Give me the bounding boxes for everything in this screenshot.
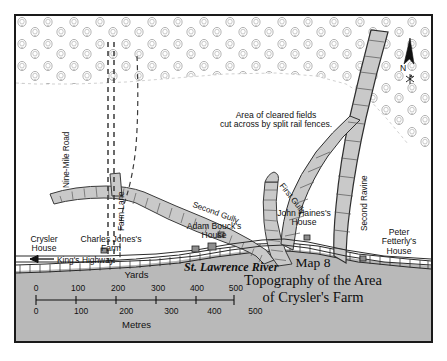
scale-yards-tick: 200 xyxy=(111,283,125,293)
scale-ticks-metres: 0100200300400500 xyxy=(34,306,239,318)
scale-unit-metres: Metres xyxy=(34,319,239,330)
scale-yards-tick: 300 xyxy=(151,283,165,293)
cleared-fields-annotation-line2: cut across by split rail fences. xyxy=(191,120,361,129)
map-title-block: Map 8 Topography of the Area of Crysler'… xyxy=(209,255,417,307)
map-frame: Area of cleared fields cut across by spl… xyxy=(14,14,433,343)
nine-mile-road-label: Nine-Mile Road xyxy=(63,132,72,188)
scale-bar-block: Yards 0100200300400500 0100200300400500 … xyxy=(34,269,239,331)
scale-yards-tick: 500 xyxy=(229,283,243,293)
scale-metres-tick: 300 xyxy=(164,306,178,316)
scale-metres-tick: 100 xyxy=(74,306,88,316)
scale-ticks-yards: 0100200300400500 xyxy=(34,283,239,295)
scale-unit-yards: Yards xyxy=(34,269,239,280)
charles-jones-farm-label-line2: Farm xyxy=(56,244,166,253)
building-john-haines xyxy=(304,235,310,240)
scale-bar-rule xyxy=(34,295,239,305)
scale-yards-tick: 400 xyxy=(190,283,204,293)
map-title-number: Map 8 xyxy=(209,255,417,271)
second-ravine-label: Second Ravine xyxy=(361,175,370,231)
farm-lane-label: Farm Lane xyxy=(118,191,127,231)
scale-metres-tick: 0 xyxy=(34,306,39,316)
adam-bouck-house-label-line2: House xyxy=(166,231,262,240)
charles-jones-farm-label: Charles Jones's Farm xyxy=(56,235,166,254)
peter-fetterly-house-label: Peter Fetterly's House xyxy=(368,228,430,256)
adam-bouck-house-label: Adam Bouck's House xyxy=(166,222,262,241)
north-arrow-label: N xyxy=(400,64,406,73)
cleared-fields-annotation: Area of cleared fields cut across by spl… xyxy=(191,111,361,130)
scale-metres-tick: 200 xyxy=(119,306,133,316)
john-haines-house-label-line2: House xyxy=(256,218,352,227)
building-charles-jones-a xyxy=(192,246,199,252)
kings-highway-label: King's Highway xyxy=(57,256,114,265)
scale-yards-tick: 100 xyxy=(71,283,85,293)
map-figure: Area of cleared fields cut across by spl… xyxy=(0,0,447,361)
scale-metres-tick: 500 xyxy=(248,306,262,316)
building-charles-jones-b xyxy=(208,243,216,250)
scale-yards-tick: 0 xyxy=(34,283,39,293)
scale-metres-tick: 400 xyxy=(207,306,221,316)
